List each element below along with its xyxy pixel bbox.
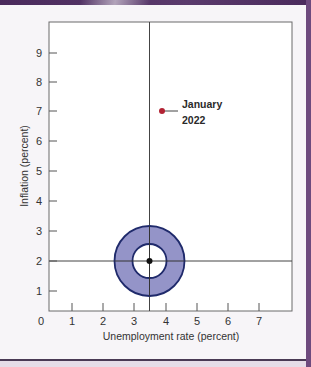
target-ring [115, 226, 185, 296]
svg-text:1: 1 [69, 315, 75, 327]
svg-text:0: 0 [38, 315, 44, 327]
annotation-line1: January [182, 98, 222, 110]
svg-text:4: 4 [163, 315, 169, 327]
svg-text:5: 5 [36, 165, 42, 177]
target-center-dot [147, 258, 153, 264]
x-tick-labels: 0 1 2 3 4 5 6 7 [38, 315, 262, 327]
svg-text:6: 6 [36, 135, 42, 147]
svg-text:2: 2 [36, 255, 42, 267]
y-axis-title: Inflation (percent) [18, 125, 30, 207]
svg-text:7: 7 [256, 315, 262, 327]
svg-text:4: 4 [36, 195, 42, 207]
svg-text:3: 3 [131, 315, 137, 327]
bottom-band [0, 361, 306, 367]
point-marker [159, 108, 165, 114]
svg-text:1: 1 [36, 285, 42, 297]
svg-text:5: 5 [194, 315, 200, 327]
svg-text:3: 3 [36, 225, 42, 237]
svg-text:6: 6 [225, 315, 231, 327]
svg-text:7: 7 [36, 105, 42, 117]
svg-text:9: 9 [36, 47, 42, 59]
svg-text:2: 2 [100, 315, 106, 327]
svg-text:8: 8 [36, 76, 42, 88]
annotation-line2: 2022 [182, 114, 206, 126]
y-tick-labels: 1 2 3 4 5 6 7 8 9 [36, 47, 42, 297]
x-axis-title: Unemployment rate (percent) [103, 330, 240, 342]
chart: January 2022 1 2 3 4 5 6 7 8 9 0 1 2 [0, 0, 311, 367]
